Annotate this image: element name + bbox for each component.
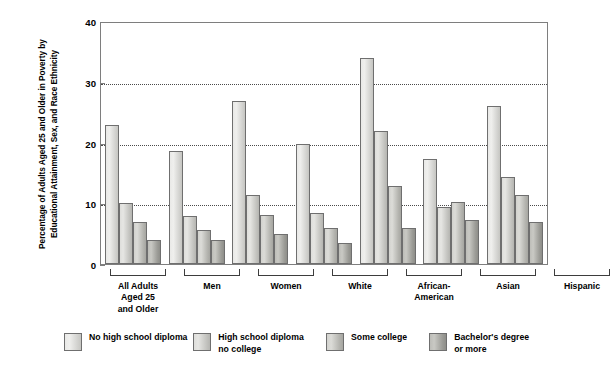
x-axis-label: African- American — [397, 281, 471, 304]
bar[interactable] — [501, 177, 515, 264]
legend-label: Some college — [351, 332, 407, 344]
bar[interactable] — [211, 240, 225, 264]
bar[interactable] — [296, 144, 310, 265]
bar-group — [232, 23, 288, 264]
x-axis-group: Women — [249, 265, 323, 327]
bar[interactable] — [515, 195, 529, 264]
bar[interactable] — [423, 159, 437, 264]
legend-item[interactable]: Some college — [326, 332, 429, 351]
y-axis-tick-label: 10 — [70, 199, 96, 210]
bar[interactable] — [274, 234, 288, 264]
y-axis-tick-mark — [100, 204, 105, 205]
x-axis-label: Men — [175, 281, 249, 292]
x-axis-bracket — [554, 269, 610, 276]
bar[interactable] — [169, 151, 183, 264]
bar[interactable] — [437, 207, 451, 264]
bar[interactable] — [465, 220, 479, 264]
bar[interactable] — [183, 216, 197, 264]
y-axis-tick-label: 40 — [70, 17, 96, 28]
x-axis-label: All Adults Aged 25 and Older — [101, 281, 175, 315]
x-axis-label: White — [323, 281, 397, 292]
legend-label: High school diploma no college — [218, 332, 303, 355]
legend-item[interactable]: High school diploma no college — [193, 332, 326, 355]
x-axis-bracket — [406, 269, 462, 276]
bar-group — [105, 23, 161, 264]
bar[interactable] — [133, 222, 147, 264]
bar-groups — [101, 23, 547, 264]
bar[interactable] — [260, 215, 274, 264]
x-axis-label: Asian — [471, 281, 545, 292]
legend-swatch — [64, 333, 82, 351]
x-axis-bracket — [258, 269, 314, 276]
y-axis-tick-label: 30 — [70, 77, 96, 88]
x-axis-bracket — [480, 269, 536, 276]
x-axis-bracket — [184, 269, 240, 276]
bar[interactable] — [338, 243, 352, 264]
bar[interactable] — [529, 222, 543, 264]
x-axis-group: Hispanic — [545, 265, 614, 327]
bar[interactable] — [374, 131, 388, 264]
y-axis-tick-mark — [100, 22, 105, 23]
y-axis-tick-labels: 010203040 — [66, 22, 96, 265]
bar[interactable] — [246, 195, 260, 264]
bar-group — [360, 23, 416, 264]
x-axis-bracket — [110, 269, 166, 276]
x-axis-group: African- American — [397, 265, 471, 327]
bar[interactable] — [232, 101, 246, 264]
chart-legend: No high school diplomaHigh school diplom… — [64, 332, 534, 366]
y-axis-tick-label: 20 — [70, 138, 96, 149]
legend-item[interactable]: Bachelor's degree or more — [429, 332, 534, 355]
y-axis-tick-mark — [100, 144, 105, 145]
bar[interactable] — [360, 58, 374, 264]
legend-label: Bachelor's degree or more — [454, 332, 529, 355]
x-axis-group: White — [323, 265, 397, 327]
x-axis-group: Asian — [471, 265, 545, 327]
y-axis-tick-mark — [100, 265, 105, 266]
legend-swatch — [326, 333, 344, 351]
bar[interactable] — [119, 203, 133, 264]
bar-group — [169, 23, 225, 264]
bar[interactable] — [324, 228, 338, 264]
bar[interactable] — [197, 230, 211, 264]
bar[interactable] — [402, 228, 416, 264]
legend-item[interactable]: No high school diploma — [64, 332, 193, 351]
bar[interactable] — [105, 125, 119, 264]
bar-group — [423, 23, 479, 264]
bar[interactable] — [388, 186, 402, 264]
x-axis-group: All Adults Aged 25 and Older — [101, 265, 175, 327]
bar[interactable] — [147, 240, 161, 264]
legend-swatch — [193, 333, 211, 351]
bar-group — [487, 23, 543, 264]
y-axis-tick-label: 0 — [70, 260, 96, 271]
x-axis-label: Women — [249, 281, 323, 292]
bar[interactable] — [451, 202, 465, 264]
legend-label: No high school diploma — [89, 332, 187, 344]
x-axis-label: Hispanic — [545, 281, 614, 292]
legend-swatch — [429, 333, 447, 351]
x-axis: All Adults Aged 25 and OlderMenWomenWhit… — [101, 265, 547, 327]
y-axis-tick-mark — [100, 83, 105, 84]
x-axis-bracket — [332, 269, 388, 276]
y-axis-title: Percentage of Adults Aged 25 and Older i… — [26, 20, 70, 268]
x-axis-group: Men — [175, 265, 249, 327]
bar[interactable] — [487, 106, 501, 264]
bar[interactable] — [310, 213, 324, 264]
bar-group — [296, 23, 352, 264]
